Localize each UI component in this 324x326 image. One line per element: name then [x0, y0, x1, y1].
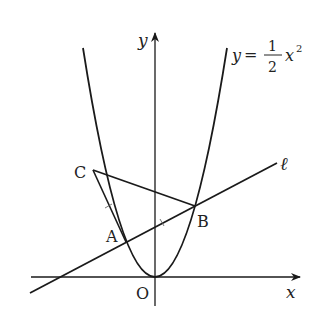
origin-label: O — [136, 284, 149, 303]
segment-CB — [93, 170, 195, 206]
equation-exponent: 2 — [296, 43, 302, 54]
point-label-B: B — [197, 212, 209, 231]
diagram-canvas: y x O C B A ℓ y = 1 2 x 2 — [0, 0, 324, 326]
equation-equals: = — [244, 45, 257, 64]
fraction-numerator: 1 — [268, 38, 277, 54]
x-axis-label: x — [286, 282, 296, 302]
line-l — [30, 163, 277, 293]
line-label-l: ℓ — [280, 153, 288, 174]
point-label-A: A — [105, 227, 118, 246]
equation-var: x — [285, 46, 294, 65]
equation-lhs: y — [231, 46, 242, 65]
curve-equation: y = 1 2 x 2 — [231, 38, 302, 75]
fraction-denominator: 2 — [268, 59, 277, 75]
point-label-C: C — [74, 163, 86, 182]
y-axis-label: y — [137, 30, 148, 50]
